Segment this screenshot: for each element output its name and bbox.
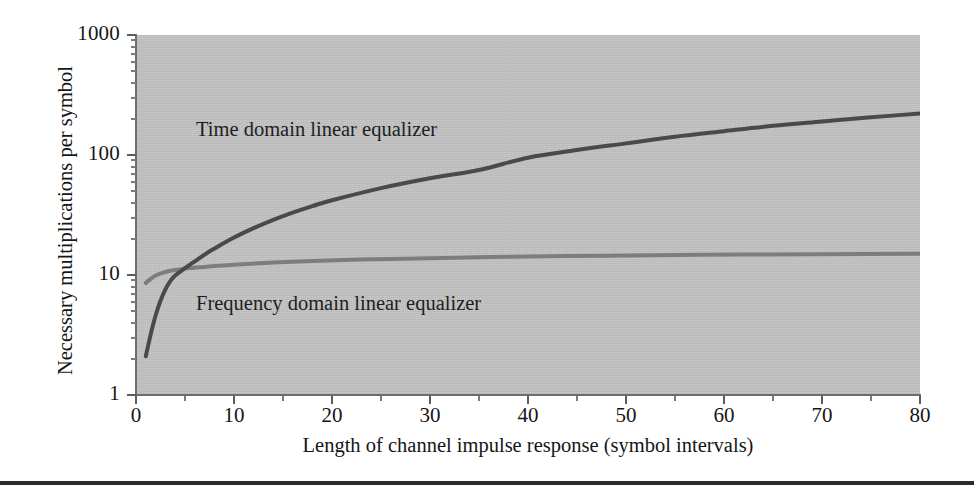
x-tick-label: 40 [518,404,539,426]
series-annotation-time-domain: Time domain linear equalizer [196,118,437,140]
chart-root: 1101001000 01020304050607080 Time domain… [0,0,974,460]
x-tick-label: 60 [714,404,735,426]
series-line-frequency-domain [146,254,920,283]
y-tick-label: 10 [99,263,120,284]
y-tick-mark [127,274,136,276]
y-axis-title: Necessary multiplications per symbol [54,21,77,421]
x-tick-label: 0 [131,404,142,426]
y-tick-mark [127,34,136,36]
y-tick-label: 100 [88,143,120,164]
x-minor-tick-mark [380,396,382,401]
x-minor-tick-mark [674,396,676,401]
x-minor-tick-mark [478,396,480,401]
x-tick-label: 70 [812,404,833,426]
chart-curves [136,35,920,395]
x-tick-label: 30 [420,404,441,426]
x-minor-tick-mark [576,396,578,401]
x-minor-tick-mark [184,396,186,401]
x-tick-label: 50 [616,404,637,426]
series-annotation-frequency-domain: Frequency domain linear equalizer [196,292,481,314]
figure-container: 1101001000 01020304050607080 Time domain… [0,0,974,490]
y-tick-mark [127,154,136,156]
bottom-divider-rule [0,481,974,485]
y-tick-label: 1000 [77,23,120,44]
x-tick-label: 10 [224,404,245,426]
x-minor-tick-mark [282,396,284,401]
x-tick-label: 20 [322,404,343,426]
x-tick-label: 80 [910,404,931,426]
series-line-time-domain [146,113,920,356]
x-minor-tick-mark [870,396,872,401]
x-axis-title: Length of channel impulse response (symb… [136,434,920,457]
x-minor-tick-mark [772,396,774,401]
y-tick-label: 1 [109,383,120,404]
